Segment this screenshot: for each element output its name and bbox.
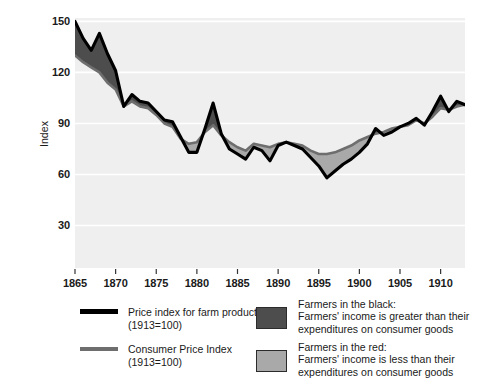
- legend-line-1: Consumer Price Index: [128, 343, 232, 356]
- legend-line-1: Price index for farm products: [128, 306, 262, 319]
- legend-item-farm-price-index: Price index for farm products (1913=100): [80, 306, 262, 331]
- legend-item-farmers-in-the-black: Farmers in the black: Farmers' income is…: [256, 298, 469, 335]
- legend-line-1: Farmers in the black:: [298, 298, 469, 310]
- x-axis-tick-label: 1885: [216, 278, 260, 289]
- grey-line-swatch: [80, 347, 118, 351]
- chart-legend: Price index for farm products (1913=100)…: [0, 298, 489, 391]
- legend-line-2: Farmers' income is less than their: [298, 353, 455, 365]
- x-axis-tick-labels: 1865187018751880188518901895190019051910: [0, 0, 489, 300]
- x-axis-tick-label: 1905: [378, 278, 422, 289]
- legend-text-farm-price-index: Price index for farm products (1913=100): [128, 306, 262, 331]
- x-axis-tick-label: 1870: [94, 278, 138, 289]
- legend-item-farmers-in-the-red: Farmers in the red: Farmers' income is l…: [256, 341, 455, 378]
- x-axis-tick-label: 1900: [337, 278, 381, 289]
- legend-line-1: Farmers in the red:: [298, 341, 455, 353]
- legend-text-consumer-price-index: Consumer Price Index (1913=100): [128, 343, 232, 368]
- chart-figure: Index 150120906030 186518701875188018851…: [0, 0, 489, 391]
- legend-line-2: (1913=100): [128, 356, 232, 369]
- light-grey-box-swatch: [256, 350, 287, 372]
- x-axis-tick-label: 1910: [419, 278, 463, 289]
- x-axis-tick-label: 1895: [297, 278, 341, 289]
- x-axis-tick-label: 1890: [256, 278, 300, 289]
- legend-line-3: expenditures on consumer goods: [298, 366, 455, 378]
- x-axis-tick-label: 1880: [175, 278, 219, 289]
- legend-item-consumer-price-index: Consumer Price Index (1913=100): [80, 343, 232, 368]
- legend-line-2: Farmers' income is greater than their: [298, 310, 469, 322]
- legend-line-3: expenditures on consumer goods: [298, 323, 469, 335]
- dark-grey-box-swatch: [256, 307, 287, 329]
- x-axis-tick-label: 1865: [53, 278, 97, 289]
- x-axis-tick-label: 1875: [134, 278, 178, 289]
- legend-text-farmers-in-the-black: Farmers in the black: Farmers' income is…: [298, 298, 469, 335]
- black-line-swatch: [80, 309, 118, 314]
- legend-text-farmers-in-the-red: Farmers in the red: Farmers' income is l…: [298, 341, 455, 378]
- legend-line-2: (1913=100): [128, 319, 262, 332]
